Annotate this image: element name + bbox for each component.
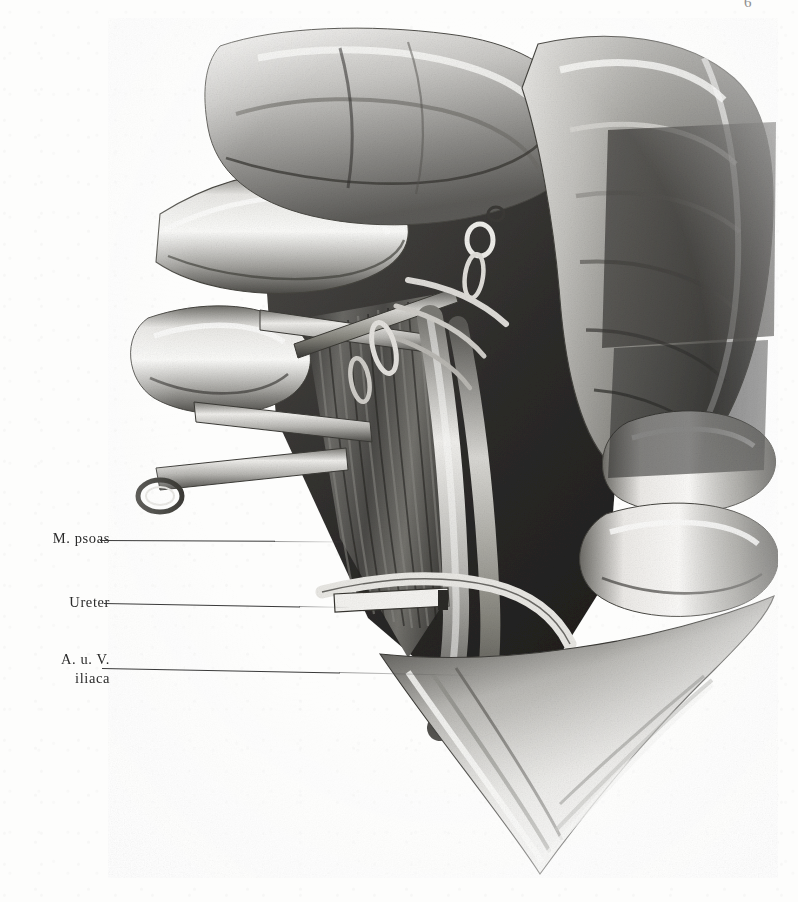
illustration-canvas	[108, 18, 778, 878]
label-m-psoas: M. psoas	[6, 530, 110, 547]
label-a-u-v-iliaca-line2: iliaca	[6, 668, 110, 689]
plate-page: 6	[0, 0, 798, 902]
label-a-u-v-iliaca-line1: A. u. V.	[61, 651, 110, 667]
label-a-u-v-iliaca: A. u. V. iliaca	[6, 651, 110, 689]
anatomical-illustration	[108, 18, 778, 878]
label-ureter: Ureter	[6, 594, 110, 611]
page-corner-artifact: 6	[744, 0, 766, 10]
label-m-psoas-text: M. psoas	[53, 530, 110, 546]
